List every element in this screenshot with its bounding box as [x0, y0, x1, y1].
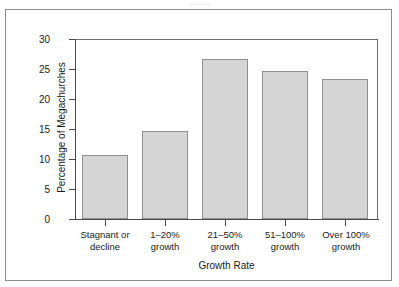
x-axis-label-line-1: 51–100% [255, 229, 315, 241]
figure-container: ——— 0 5 10 15 20 25 30 Sta [0, 0, 399, 287]
x-axis-line [75, 219, 379, 220]
cropped-caption-text: ——— [0, 0, 399, 8]
x-axis-label-over-100-percent-growth: Over 100% growth [315, 229, 377, 252]
bar-51-100-percent-growth[interactable] [262, 71, 308, 219]
y-tick-30 [69, 39, 75, 40]
y-tick-10 [69, 159, 75, 160]
x-tick-4 [345, 220, 346, 226]
y-tick-0 [69, 219, 75, 220]
x-axis-label-51-100-percent-growth: 51–100% growth [255, 229, 315, 252]
bar-21-50-percent-growth[interactable] [202, 59, 248, 219]
x-axis-label-line-2: growth [135, 241, 195, 253]
y-axis-title: Percentage of Megachurches [56, 43, 67, 213]
figure-frame-box: 0 5 10 15 20 25 30 Stagnant or decline [5, 9, 392, 281]
y-tick-5 [69, 189, 75, 190]
x-axis-title: Growth Rate [75, 260, 378, 271]
x-axis-label-line-1: Stagnant or [75, 229, 135, 241]
bar-1-20-percent-growth[interactable] [142, 131, 188, 219]
x-axis-label-line-1: 21–50% [195, 229, 255, 241]
x-axis-label-line-1: 1–20% [135, 229, 195, 241]
bar-over-100-percent-growth[interactable] [322, 79, 368, 219]
x-axis-label-line-1: Over 100% [315, 229, 377, 241]
y-tick-20 [69, 99, 75, 100]
x-axis-label-1-20-percent-growth: 1–20% growth [135, 229, 195, 252]
x-axis-label-stagnant-or-decline: Stagnant or decline [75, 229, 135, 252]
x-axis-label-line-2: decline [75, 241, 135, 253]
bar-stagnant-or-decline[interactable] [82, 155, 128, 219]
x-tick-3 [285, 220, 286, 226]
y-tick-25 [69, 69, 75, 70]
x-axis-label-line-2: growth [315, 241, 377, 253]
x-tick-0 [105, 220, 106, 226]
x-tick-2 [225, 220, 226, 226]
x-axis-label-21-50-percent-growth: 21–50% growth [195, 229, 255, 252]
x-axis-label-line-2: growth [195, 241, 255, 253]
y-axis-line [75, 39, 76, 220]
x-tick-1 [165, 220, 166, 226]
y-axis-title-wrapper: Percentage of Megachurches [33, 10, 47, 250]
y-tick-15 [69, 129, 75, 130]
x-axis-label-line-2: growth [255, 241, 315, 253]
